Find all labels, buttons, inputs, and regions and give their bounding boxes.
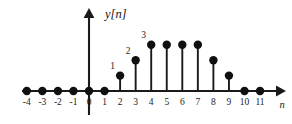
x-tick-label: 2: [118, 97, 123, 107]
x-tick-label: 4: [149, 97, 154, 107]
stem-plot: -4-3-2-101234567891011 123 y[n] n: [0, 0, 292, 124]
x-tick-label: -1: [69, 97, 77, 107]
x-tick-label: 10: [240, 97, 250, 107]
x-tick-label: 9: [227, 97, 232, 107]
x-tick-label: -2: [54, 97, 62, 107]
x-tick-label: 8: [211, 97, 216, 107]
data-point: [23, 87, 31, 95]
x-tick-label-group: -4-3-2-101234567891011: [23, 97, 265, 107]
data-point: [69, 87, 77, 95]
data-point: [163, 41, 171, 49]
data-point: [240, 87, 248, 95]
data-point: [209, 56, 217, 64]
x-axis-label: n: [279, 99, 284, 110]
x-tick-label: 7: [195, 97, 200, 107]
x-tick-label: -4: [23, 97, 31, 107]
value-annotation: 3: [141, 30, 146, 40]
x-tick-label: -3: [38, 97, 46, 107]
x-tick-label: 1: [102, 97, 107, 107]
figure-canvas: -4-3-2-101234567891011 123 y[n] n: [0, 0, 292, 124]
data-point: [178, 41, 186, 49]
data-point: [54, 87, 62, 95]
value-annotation: 1: [110, 61, 115, 71]
data-point: [225, 71, 233, 79]
stem-group: [120, 45, 229, 91]
data-point: [85, 87, 93, 95]
y-axis-label: y[n]: [103, 7, 127, 21]
data-point: [38, 87, 46, 95]
data-point: [147, 41, 155, 49]
x-tick-label: 3: [133, 97, 138, 107]
data-point: [100, 87, 108, 95]
value-annotation: 2: [126, 46, 131, 56]
y-axis-arrowhead: [84, 8, 95, 18]
x-axis-arrowhead: [276, 85, 286, 96]
data-point: [116, 71, 124, 79]
x-tick-label: 11: [255, 97, 264, 107]
x-tick-label: 6: [180, 97, 185, 107]
data-point: [194, 41, 202, 49]
x-tick-label: 5: [164, 97, 169, 107]
x-tick-label: 0: [87, 97, 92, 107]
value-annotation-group: 123: [110, 30, 146, 71]
data-point: [256, 87, 264, 95]
data-point: [131, 56, 139, 64]
